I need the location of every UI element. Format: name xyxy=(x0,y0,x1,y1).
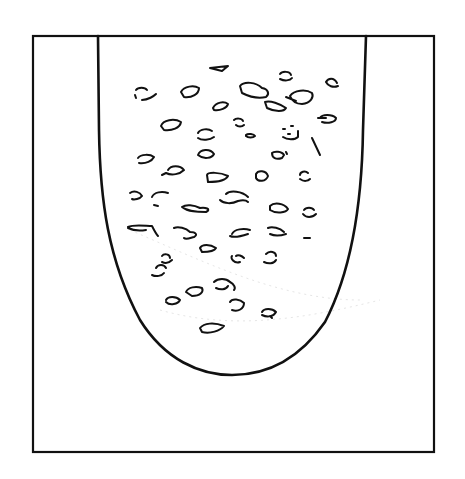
particle xyxy=(130,192,142,200)
particle xyxy=(162,254,172,263)
particle xyxy=(246,134,255,138)
particle-group xyxy=(128,66,338,333)
particle xyxy=(230,229,250,237)
particle xyxy=(128,225,158,236)
particle xyxy=(262,309,276,318)
particle xyxy=(214,279,235,290)
particle xyxy=(210,66,228,71)
particle xyxy=(152,192,168,206)
particle xyxy=(312,138,320,155)
particle xyxy=(231,255,244,262)
particle xyxy=(200,324,224,333)
particle xyxy=(300,172,310,181)
particle xyxy=(268,227,286,235)
particle xyxy=(234,119,244,127)
particle xyxy=(303,208,316,217)
particle xyxy=(207,173,228,182)
particle xyxy=(265,101,286,111)
particle xyxy=(256,171,268,181)
particle xyxy=(220,192,248,204)
faint-mark xyxy=(160,300,380,321)
particle xyxy=(318,115,336,123)
particle xyxy=(152,265,166,276)
particle xyxy=(174,227,196,239)
particle xyxy=(138,155,154,163)
particle xyxy=(135,88,156,100)
particle xyxy=(161,120,181,130)
diagram-figure xyxy=(0,0,465,479)
outer-frame xyxy=(33,36,434,452)
particle xyxy=(286,91,313,104)
particle xyxy=(181,86,199,97)
particle xyxy=(166,297,180,304)
particle xyxy=(213,102,228,110)
particle xyxy=(272,152,287,159)
particle xyxy=(270,204,288,213)
particle xyxy=(182,205,208,212)
particle xyxy=(283,126,298,139)
particle xyxy=(326,79,338,87)
particle xyxy=(240,83,268,98)
particle xyxy=(264,252,276,263)
diagram-canvas xyxy=(0,0,465,479)
particle xyxy=(198,150,214,158)
particle xyxy=(198,129,214,140)
u-shaped-vessel xyxy=(98,36,366,375)
particle xyxy=(200,245,216,252)
particle xyxy=(162,166,184,175)
particle xyxy=(280,72,292,81)
particle xyxy=(186,287,203,296)
particle xyxy=(230,299,244,310)
